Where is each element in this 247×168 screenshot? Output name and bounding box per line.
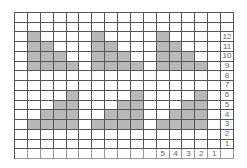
- shaded-stitch-cell: [54, 120, 67, 130]
- shaded-stitch-cell: [41, 120, 54, 130]
- shaded-stitch-cell: [182, 52, 195, 62]
- shaded-stitch-cell: [54, 52, 67, 62]
- grid-cell: [195, 13, 208, 23]
- row-number-label: 1: [221, 140, 234, 150]
- grid-cell: [157, 71, 170, 81]
- grid-cell: [67, 52, 80, 62]
- shaded-stitch-cell: [54, 110, 67, 120]
- grid-cell: [208, 120, 221, 130]
- knitting-chart-grid: 12111098765432154321: [14, 12, 234, 159]
- grid-cell: [144, 42, 157, 52]
- shaded-stitch-cell: [195, 91, 208, 101]
- grid-cell: [170, 140, 183, 150]
- grid-cell: [79, 52, 92, 62]
- grid-cell: [195, 71, 208, 81]
- grid-cell: [144, 91, 157, 101]
- shaded-stitch-cell: [67, 110, 80, 120]
- shaded-stitch-cell: [157, 52, 170, 62]
- grid-cell: [54, 91, 67, 101]
- grid-cell: [144, 62, 157, 72]
- grid-cell: [182, 13, 195, 23]
- shaded-stitch-cell: [105, 42, 118, 52]
- shaded-stitch-cell: [67, 62, 80, 72]
- shaded-stitch-cell: [28, 52, 41, 62]
- shaded-stitch-cell: [41, 110, 54, 120]
- grid-cell: [131, 23, 144, 33]
- row-number-label: 12: [221, 32, 234, 42]
- grid-cell: [144, 120, 157, 130]
- grid-cell: [118, 130, 131, 140]
- grid-cell: [144, 140, 157, 150]
- grid-cell: [79, 149, 92, 159]
- grid-cell: [41, 130, 54, 140]
- grid-cell: [118, 13, 131, 23]
- shaded-stitch-cell: [170, 62, 183, 72]
- grid-cell: [221, 23, 234, 33]
- grid-cell: [105, 81, 118, 91]
- shaded-stitch-cell: [170, 52, 183, 62]
- grid-cell: [208, 62, 221, 72]
- grid-cell: [54, 71, 67, 81]
- grid-cell: [118, 71, 131, 81]
- grid-cell: [67, 140, 80, 150]
- shaded-stitch-cell: [105, 110, 118, 120]
- grid-cell: [67, 130, 80, 140]
- grid-cell: [79, 32, 92, 42]
- grid-cell: [118, 32, 131, 42]
- grid-cell: [79, 71, 92, 81]
- grid-cell: [15, 101, 28, 111]
- grid-cell: [195, 140, 208, 150]
- shaded-stitch-cell: [118, 120, 131, 130]
- grid-cell: [157, 140, 170, 150]
- shaded-stitch-cell: [28, 120, 41, 130]
- row-number-label: 9: [221, 62, 234, 72]
- shaded-stitch-cell: [157, 32, 170, 42]
- grid-cell: [79, 140, 92, 150]
- grid-cell: [79, 81, 92, 91]
- grid-cell: [182, 91, 195, 101]
- grid-cell: [195, 130, 208, 140]
- grid-cell: [41, 149, 54, 159]
- grid-cell: [182, 42, 195, 52]
- grid-cell: [170, 23, 183, 33]
- grid-cell: [41, 140, 54, 150]
- grid-cell: [170, 91, 183, 101]
- shaded-stitch-cell: [131, 101, 144, 111]
- grid-cell: [28, 71, 41, 81]
- grid-cell: [54, 23, 67, 33]
- grid-cell: [118, 140, 131, 150]
- grid-cell: [105, 149, 118, 159]
- grid-cell: [79, 13, 92, 23]
- grid-cell: [54, 13, 67, 23]
- grid-cell: [182, 23, 195, 33]
- grid-cell: [41, 13, 54, 23]
- shaded-stitch-cell: [131, 110, 144, 120]
- grid-cell: [195, 42, 208, 52]
- grid-cell: [15, 110, 28, 120]
- shaded-stitch-cell: [182, 110, 195, 120]
- grid-cell: [28, 81, 41, 91]
- grid-cell: [105, 101, 118, 111]
- shaded-stitch-cell: [105, 52, 118, 62]
- grid-cell: [54, 42, 67, 52]
- grid-cell: [67, 13, 80, 23]
- shaded-stitch-cell: [170, 42, 183, 52]
- grid-cell: [144, 13, 157, 23]
- grid-cell: [28, 101, 41, 111]
- grid-cell: [144, 110, 157, 120]
- grid-cell: [67, 149, 80, 159]
- grid-cell: [208, 101, 221, 111]
- shaded-stitch-cell: [67, 91, 80, 101]
- grid-cell: [92, 91, 105, 101]
- grid-cell: [15, 140, 28, 150]
- grid-cell: [157, 13, 170, 23]
- grid-cell: [67, 32, 80, 42]
- grid-cell: [118, 23, 131, 33]
- shaded-stitch-cell: [54, 101, 67, 111]
- grid-cell: [170, 71, 183, 81]
- grid-cell: [208, 32, 221, 42]
- grid-cell: [28, 91, 41, 101]
- grid-cell: [118, 91, 131, 101]
- grid-cell: [92, 71, 105, 81]
- grid-cell: [170, 81, 183, 91]
